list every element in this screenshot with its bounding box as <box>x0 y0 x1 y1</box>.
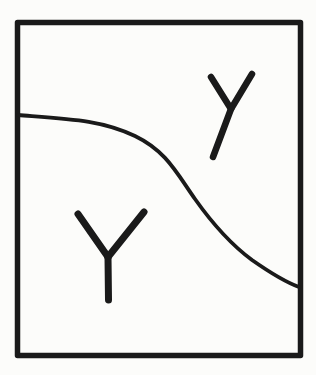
diagram-canvas <box>0 0 316 375</box>
y-symbol-lower-left-stroke-3 <box>108 257 109 300</box>
paper-background <box>0 0 316 375</box>
figure <box>0 0 316 375</box>
